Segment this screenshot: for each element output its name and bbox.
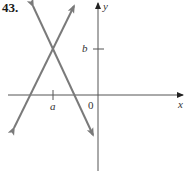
origin-label: 0	[88, 99, 94, 111]
coordinate-plane	[0, 0, 190, 171]
a-label: a	[50, 100, 56, 112]
y-axis-label: y	[103, 0, 108, 12]
b-label: b	[82, 42, 88, 54]
rising-line	[14, 6, 74, 128]
graph-figure: 43. y x b a 0	[0, 0, 190, 171]
x-axis-label: x	[178, 98, 183, 110]
